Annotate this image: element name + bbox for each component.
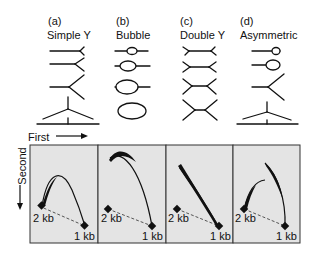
- panel-2-2kb: 2 kb: [101, 212, 122, 224]
- panel-4-1kb: 1 kb: [276, 230, 297, 242]
- asymmetric-icon: [237, 48, 298, 125]
- bubble-icon: [115, 48, 150, 120]
- panel-1-2kb: 2 kb: [33, 212, 54, 224]
- panel-3-1kb: 1 kb: [210, 230, 231, 242]
- double-y-icon: [183, 47, 217, 120]
- gel-panels: [30, 145, 300, 243]
- first-arrow-icon: [56, 133, 88, 139]
- panel-3-2kb: 2 kb: [168, 212, 189, 224]
- second-axis-label: Second: [16, 144, 28, 188]
- panel-1-1kb: 1 kb: [74, 230, 95, 242]
- simple-y-icon: [37, 47, 99, 124]
- panel-4-2kb: 2 kb: [235, 212, 256, 224]
- second-arrow-icon: [17, 185, 23, 210]
- first-axis-label: First: [28, 131, 49, 143]
- panel-2-1kb: 1 kb: [142, 230, 163, 242]
